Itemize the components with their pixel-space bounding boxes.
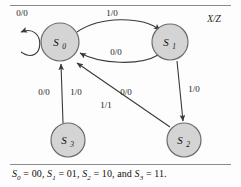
state-label-s1: S (163, 36, 169, 48)
state-sublabel-s3: 3 (69, 140, 74, 149)
state-sublabel-s2: 2 (186, 140, 190, 149)
figure-container: 0/0 1/0 0/0 1/0 0/0 1/0 0/0 1/1 (0, 0, 241, 187)
figure-caption: S0 = 00, S1 = 01, S2 = 10, and S3 = 11. (12, 168, 232, 182)
caption-s1-value: 01 (67, 168, 77, 179)
state-label-s2: S (177, 134, 183, 146)
state-node-s3[interactable]: S 3 (51, 123, 85, 157)
caption-s2-value: 10 (102, 168, 112, 179)
state-sublabel-s1: 1 (172, 42, 176, 51)
transition-s1-to-s2: 1/0 (177, 61, 200, 121)
transition-label-s0-s0: 0/0 (16, 8, 28, 18)
transition-label-s0-s1: 1/0 (106, 8, 118, 18)
state-node-s0[interactable]: S 0 (41, 23, 79, 61)
state-circle-s2[interactable] (167, 123, 201, 157)
caption-s1-sub: 1 (52, 174, 56, 182)
state-circle-s3[interactable] (51, 123, 85, 157)
caption-s0-value: 00 (32, 168, 42, 179)
transition-s3-to-s0: 0/0 1/0 (38, 64, 82, 123)
state-sublabel-s0: 0 (62, 42, 66, 51)
state-circle-s1[interactable] (152, 24, 188, 60)
state-circle-s0[interactable] (41, 23, 79, 61)
state-diagram-canvas: 0/0 1/0 0/0 1/0 0/0 1/0 0/0 1/1 (0, 0, 241, 187)
state-label-s3: S (61, 134, 67, 146)
transition-s2-to-s0: 0/0 1/1 (77, 63, 170, 127)
transition-s0-to-s0-arc (21, 31, 40, 56)
transition-label-s2-s0-b: 1/1 (100, 100, 112, 110)
caption-s3-sub: 3 (140, 174, 144, 182)
caption-s3-value: 11 (154, 168, 164, 179)
state-label-s0: S (53, 36, 59, 48)
transition-s1-to-s2-line (177, 61, 183, 121)
state-node-s2[interactable]: S 2 (167, 123, 201, 157)
caption-s2-sub: 2 (87, 174, 91, 182)
transition-label-s3-s0-a: 0/0 (38, 87, 50, 97)
transition-label-s2-s0-a: 0/0 (120, 87, 132, 97)
transition-s0-to-s1: 1/0 (77, 8, 160, 32)
state-node-s1[interactable]: S 1 (152, 24, 188, 60)
transition-label-s1-s2: 1/0 (188, 84, 200, 94)
transition-label-s3-s0-b: 1/0 (70, 87, 82, 97)
caption-conjunction: and (117, 168, 132, 179)
transition-s1-to-s0: 0/0 (80, 47, 158, 62)
transition-s0-to-s0: 0/0 (16, 8, 40, 55)
transition-s3-to-s0-line (61, 64, 63, 123)
transition-label-s1-s0: 0/0 (110, 47, 122, 57)
legend-input-output-label: X/Z (206, 14, 221, 24)
caption-s0-sub: 0 (17, 174, 21, 182)
transition-s0-to-s1-arc (77, 20, 160, 32)
